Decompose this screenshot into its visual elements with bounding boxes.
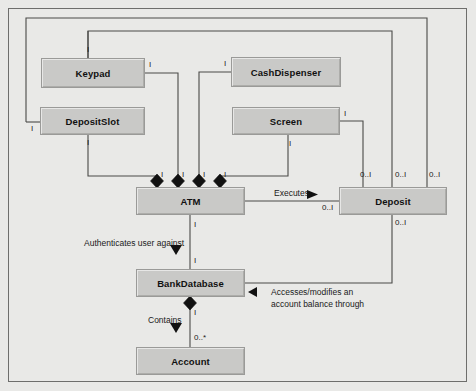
multiplicity-screen-right: I — [344, 109, 346, 118]
association-label-accesses-line1: Accesses/modifies an — [271, 287, 353, 297]
multiplicity-deposit-left: 0..I — [322, 203, 333, 212]
multiplicity-deposit-top-3: 0..I — [429, 170, 440, 179]
multiplicity-bankdatabase-bottom: I — [194, 308, 196, 317]
multiplicity-keypad-right: I — [149, 60, 151, 69]
multiplicity-screen-bottom: I — [289, 139, 291, 148]
multiplicity-atm-bottom: I — [194, 220, 196, 229]
class-box-cashdispenser[interactable]: CashDispenser — [231, 57, 341, 87]
uml-diagram-canvas: .ln { stroke:#4a4a48; stroke-width:1.1; … — [0, 0, 476, 391]
arrowhead-accesses — [248, 287, 257, 297]
multiplicity-bankdatabase-top: I — [194, 256, 196, 265]
multiplicity-deposit-bottom: 0..I — [395, 218, 406, 227]
multiplicity-cashdispenser-left: I — [224, 59, 226, 68]
class-box-atm[interactable]: ATM — [136, 187, 245, 215]
class-box-keypad[interactable]: Keypad — [41, 58, 145, 88]
multiplicity-atm-composition-3: I — [203, 170, 205, 179]
class-box-depositslot[interactable]: DepositSlot — [40, 107, 145, 135]
class-box-screen[interactable]: Screen — [232, 107, 340, 135]
multiplicity-depositslot-bottom: I — [87, 138, 89, 147]
multiplicity-atm-composition-2: I — [182, 170, 184, 179]
class-box-account[interactable]: Account — [136, 347, 245, 375]
class-box-deposit[interactable]: Deposit — [339, 187, 447, 215]
multiplicity-depositslot-left: I — [31, 124, 33, 133]
association-label-executes: Executes — [274, 188, 309, 198]
multiplicity-deposit-top-2: 0..I — [395, 170, 406, 179]
multiplicity-account-top: 0..* — [194, 333, 206, 342]
association-label-contains: Contains — [148, 315, 182, 325]
multiplicity-atm-composition-4: I — [224, 170, 226, 179]
class-box-bankdatabase[interactable]: BankDatabase — [136, 269, 245, 297]
multiplicity-atm-composition-1: I — [161, 170, 163, 179]
multiplicity-deposit-top-1: 0..I — [360, 170, 371, 179]
multiplicity-keypad-top: I — [87, 45, 89, 54]
association-label-authenticates: Authenticates user against — [84, 238, 184, 248]
association-label-accesses-line2: account balance through — [271, 299, 364, 309]
